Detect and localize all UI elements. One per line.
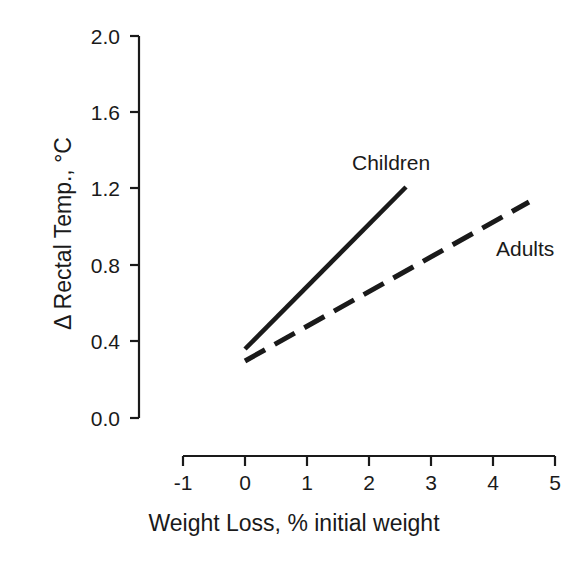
x-tick-label-0: 0 [225, 472, 265, 493]
series-label-adults: Adults [496, 238, 554, 259]
x-tick-label-1: 1 [287, 472, 327, 493]
x-axis-title: Weight Loss, % initial weight [0, 512, 588, 535]
y-tick-label-2-0: 2.0 [58, 26, 120, 47]
series-label-children: Children [352, 152, 430, 173]
y-tick-label-0-0: 0.0 [58, 408, 120, 429]
y-axis-ticks [130, 36, 139, 418]
series-line-adults [245, 202, 529, 361]
series-line-children [245, 187, 406, 349]
x-tick-label-3: 3 [411, 472, 451, 493]
x-tick-label-5: 5 [535, 472, 575, 493]
x-tick-label-neg1: -1 [163, 472, 203, 493]
x-tick-label-4: 4 [473, 472, 513, 493]
x-axis-ticks [183, 456, 555, 466]
y-axis-title: Δ Rectal Temp., °C [52, 74, 75, 394]
chart-figure: 2.0 1.6 1.2 0.8 0.4 0.0 -1 0 1 2 3 4 5 C… [0, 0, 588, 578]
x-tick-label-2: 2 [349, 472, 389, 493]
